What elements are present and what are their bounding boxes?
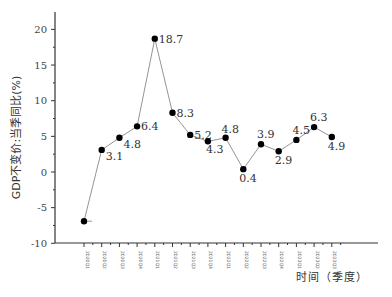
- y-axis-title: GDP不变价:当季同比(%): [9, 76, 23, 199]
- x-tick-label: 2020Q4: [138, 251, 143, 269]
- x-axis-title: 时间（季度）: [296, 268, 368, 284]
- data-label: 8.3: [177, 107, 195, 120]
- data-point: [311, 124, 317, 130]
- y-tick-label: 0: [41, 167, 47, 178]
- data-point: [116, 135, 122, 141]
- x-tick-label: 2020Q2: [102, 251, 107, 269]
- x-tick-label: 2023Q2: [315, 251, 320, 269]
- data-label: 18.7: [159, 33, 184, 46]
- x-tick-label: 2021Q3: [191, 251, 196, 269]
- data-label: 4.8: [123, 138, 140, 151]
- x-tick-label: 2021Q4: [208, 251, 213, 269]
- y-tick-label: -5: [37, 202, 47, 213]
- y-tick-label: 10: [34, 95, 47, 106]
- data-label: 3.9: [257, 128, 275, 141]
- data-point: [169, 110, 175, 116]
- x-tick-label: 2022Q4: [279, 251, 284, 269]
- x-tick-label: 2021Q1: [155, 251, 160, 269]
- data-point: [81, 218, 87, 224]
- data-label: 6.3: [310, 111, 328, 124]
- y-tick-label: 5: [41, 131, 47, 142]
- x-tick-label: 2020Q1: [85, 251, 90, 269]
- data-label: 3.1: [106, 150, 124, 163]
- x-tick-label: 2022Q3: [262, 251, 267, 269]
- y-tick-label: 20: [34, 24, 47, 35]
- data-label: 4.8: [222, 123, 240, 136]
- data-point: [152, 35, 158, 41]
- data-label: 4.5: [292, 124, 310, 137]
- y-tick-label: 15: [34, 60, 47, 71]
- data-label: 4.9: [328, 140, 346, 153]
- x-tick-label: 2020Q3: [120, 251, 125, 269]
- data-label: 2.9: [275, 154, 293, 167]
- y-tick-label: -10: [31, 238, 47, 249]
- data-label: 0.4: [239, 172, 256, 185]
- data-label: 4.3: [206, 143, 224, 156]
- x-tick-label: 2022Q1: [226, 251, 231, 269]
- data-label: 6.4: [141, 120, 159, 133]
- data-point: [134, 123, 140, 129]
- data-point: [258, 141, 264, 147]
- x-tick-label: 2023Q1: [297, 251, 302, 269]
- line-chart: -10-5051015202020Q12020Q22020Q32020Q4202…: [0, 0, 392, 297]
- x-tick-label: 2023Q3: [332, 251, 337, 269]
- data-point: [293, 137, 299, 143]
- data-point: [187, 132, 193, 138]
- data-point: [99, 147, 105, 153]
- x-tick-label: 2022Q2: [244, 251, 249, 269]
- x-tick-label: 2021Q2: [173, 251, 178, 269]
